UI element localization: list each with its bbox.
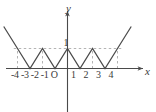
x-axis-label: x (145, 66, 150, 77)
plot-canvas (0, 0, 156, 112)
graph-figure: y x 1 -4 -3 -2 -1 O 1 2 3 4 (0, 0, 156, 112)
x-tick-labels-right: 1 2 3 4 (71, 70, 114, 80)
axes (6, 11, 143, 112)
y-axis-label: y (66, 3, 71, 14)
x-tick-labels-left: -4 -3 -2 -1 O (11, 70, 58, 80)
y-tick-label-1: 1 (61, 38, 71, 48)
